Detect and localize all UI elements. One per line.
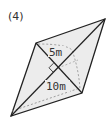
label-10m: 10m <box>46 80 66 93</box>
label-5m: 5m <box>49 46 63 59</box>
rhombus-figure: 5m 10m <box>0 0 111 138</box>
